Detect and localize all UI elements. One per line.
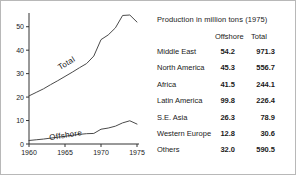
cell-region: Middle East [157, 47, 196, 56]
table-row: S.E. Asia26.378.9 [153, 113, 291, 129]
cell-total-value: 556.7 [245, 63, 275, 72]
column-header-offshore: Offshore [215, 32, 244, 41]
x-axis-ticks: 1960196519701975 [21, 144, 145, 156]
y-tick-label: 40 [16, 47, 24, 54]
cell-region: North America [157, 63, 205, 72]
x-tick-label: 1965 [57, 149, 73, 156]
cell-total-value: 78.9 [245, 113, 275, 122]
table-row: Western Europe12.830.6 [153, 129, 291, 145]
table-body: Middle East54.2971.3North America45.3556… [153, 47, 291, 162]
cell-offshore-value: 54.2 [209, 47, 235, 56]
y-tick-label: 30 [16, 70, 24, 77]
cell-region: Others [157, 145, 180, 154]
cell-total-value: 590.5 [245, 145, 275, 154]
table-row: Others32.0590.5 [153, 145, 291, 161]
cell-total-value: 30.6 [245, 129, 275, 138]
x-tick-label: 1960 [21, 149, 37, 156]
x-tick-label: 1970 [93, 149, 109, 156]
cell-offshore-value: 12.8 [209, 129, 235, 138]
column-header-total: Total [251, 32, 267, 41]
table-title: Production in million tons (1975) [157, 15, 267, 24]
cell-total-value: 971.3 [245, 47, 275, 56]
cell-offshore-value: 26.3 [209, 113, 235, 122]
y-tick-label: 0 [20, 141, 24, 148]
cell-region: S.E. Asia [157, 113, 187, 122]
data-table: Production in million tons (1975) Offsho… [153, 1, 295, 174]
cell-offshore-value: 99.8 [209, 96, 235, 105]
cell-offshore-value: 41.5 [209, 80, 235, 89]
line-chart: 01020304050 1960196519701975 Total Offsh… [1, 1, 151, 174]
series-label-offshore: Offshore [49, 128, 83, 142]
x-tick-label: 1975 [129, 149, 145, 156]
table-row: Africa41.5244.1 [153, 80, 291, 96]
y-tick-label: 50 [16, 23, 24, 30]
y-tick-label: 20 [16, 94, 24, 101]
figure-panel: 01020304050 1960196519701975 Total Offsh… [0, 0, 296, 175]
cell-region: Western Europe [157, 129, 211, 138]
cell-total-value: 244.1 [245, 80, 275, 89]
cell-region: Latin America [157, 96, 202, 105]
table-row: Latin America99.8226.4 [153, 96, 291, 112]
y-axis-ticks: 01020304050 [16, 23, 29, 147]
table-row: North America45.3556.7 [153, 63, 291, 79]
table-row: Middle East54.2971.3 [153, 47, 291, 63]
series-label-total: Total [56, 55, 76, 72]
cell-total-value: 226.4 [245, 96, 275, 105]
cell-offshore-value: 45.3 [209, 63, 235, 72]
y-tick-label: 10 [16, 117, 24, 124]
table-header-row: Offshore Total [153, 32, 291, 43]
series-line-total [29, 15, 137, 96]
cell-region: Africa [157, 80, 176, 89]
chart-canvas: 01020304050 1960196519701975 Total Offsh… [1, 1, 151, 174]
cell-offshore-value: 32.0 [209, 145, 235, 154]
series-line-offshore [29, 121, 137, 141]
